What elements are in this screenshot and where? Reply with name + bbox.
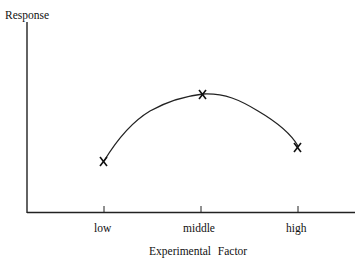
response-curve-diagram — [0, 0, 364, 269]
tick-label-middle: middle — [183, 222, 215, 234]
x-axis-label: Experimental Factor — [149, 245, 247, 257]
marker-low — [100, 157, 107, 166]
tick-label-high: high — [286, 222, 306, 234]
tick-label-low: low — [94, 222, 111, 234]
y-axis-label: Response — [5, 9, 49, 21]
response-curve — [104, 94, 298, 161]
